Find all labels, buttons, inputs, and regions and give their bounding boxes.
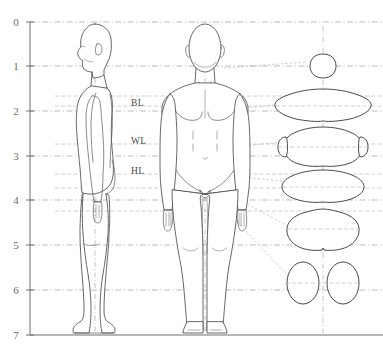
front-leg-right: [205, 190, 238, 331]
side-leg-outline-back: [100, 194, 115, 333]
vertical-axis: 0 1 2 3 4 5 6 7: [13, 16, 34, 341]
axis-tick-label-7: 7: [13, 329, 19, 341]
cross-section-neck: [310, 54, 336, 78]
front-head-outline: [189, 24, 221, 72]
side-torso-outline: [76, 86, 113, 194]
axis-tick-label-2: 2: [13, 105, 19, 117]
axis-tick-label-6: 6: [13, 284, 19, 296]
front-leg-left: [172, 190, 205, 331]
cross-sections-group: [275, 26, 371, 334]
level-labels-group: BL WL HL: [131, 98, 147, 176]
proportion-diagram: 0 1 2 3 4 5 6 7: [0, 0, 383, 357]
axis-tick-label-5: 5: [13, 239, 19, 251]
label-bust-line: BL: [131, 98, 144, 108]
cross-section-waist: [284, 127, 362, 166]
side-head-outline: [78, 24, 112, 78]
front-hand-right: [237, 210, 247, 231]
diagram-canvas: 0 1 2 3 4 5 6 7: [0, 0, 383, 357]
leader-line-neck: [224, 62, 306, 68]
axis-tick-label-0: 0: [13, 16, 19, 28]
front-foot-right: [207, 322, 227, 333]
label-waist-line: WL: [131, 136, 147, 146]
label-hip-line: HL: [131, 166, 144, 176]
axis-tick-label-3: 3: [13, 150, 19, 162]
side-leg-outline: [73, 194, 91, 333]
side-hand-outline: [93, 202, 102, 223]
front-hand-left: [163, 210, 173, 231]
front-foot-left: [183, 322, 203, 333]
cross-section-bust: [275, 89, 371, 121]
axis-tick-label-4: 4: [13, 194, 19, 206]
side-view-figure: [73, 24, 115, 334]
front-view-figure: [160, 24, 250, 334]
axis-tick-label-1: 1: [13, 60, 19, 72]
cross-section-hip: [282, 170, 364, 202]
cross-section-thigh: [287, 209, 359, 250]
